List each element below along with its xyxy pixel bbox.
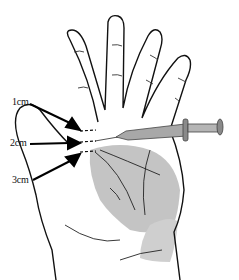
label-2cm: 2cm xyxy=(10,137,27,148)
arrows xyxy=(30,104,80,180)
injection-points xyxy=(80,130,96,152)
label-1cm: 1cm xyxy=(12,96,29,107)
label-3cm: 3cm xyxy=(12,174,29,185)
syringe xyxy=(95,119,223,141)
hand-diagram xyxy=(0,0,239,280)
